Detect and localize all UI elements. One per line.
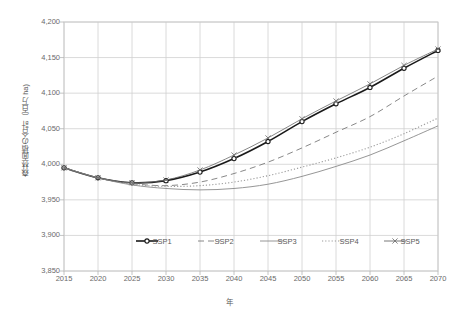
data-point-marker-ssp1 — [266, 139, 270, 143]
data-point-marker-ssp1 — [368, 85, 372, 89]
series-line-ssp2 — [64, 76, 438, 186]
forest-area-line-chart: 森林面積の合計（百万 ha) 4,2004,1504,1004,0504,000… — [0, 0, 458, 324]
legend-label-ssp5: SSP5 — [400, 237, 419, 246]
series-line-ssp1 — [64, 50, 438, 182]
legend-label-ssp3: SSP3 — [277, 237, 296, 246]
chart-legend: SSP1SSP2SSP3SSP4SSP5 — [136, 237, 420, 246]
series-line-ssp5 — [64, 49, 438, 183]
data-point-marker-ssp1 — [232, 156, 236, 160]
legend-marker-ssp1 — [145, 239, 149, 243]
legend-label-ssp1: SSP1 — [152, 237, 171, 246]
series-line-ssp3 — [64, 126, 438, 190]
legend-label-ssp4: SSP4 — [339, 237, 358, 246]
plot-area: SSP1SSP2SSP3SSP4SSP5 — [0, 0, 458, 324]
series-line-ssp4 — [64, 118, 438, 186]
data-point-marker-ssp1 — [164, 179, 168, 183]
x-axis-title: 年 — [0, 296, 458, 307]
legend-label-ssp2: SSP2 — [214, 237, 233, 246]
